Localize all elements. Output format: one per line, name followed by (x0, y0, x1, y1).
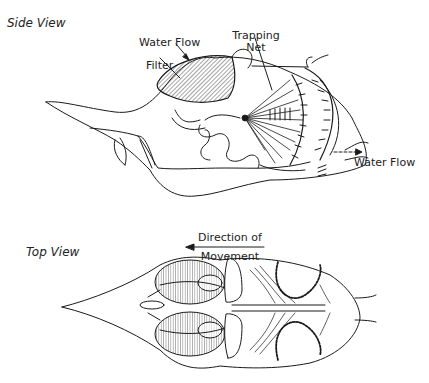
water-flow-out-label: Water Flow (354, 157, 415, 169)
trapping-net-label-line2: Net (226, 42, 286, 54)
diagram-canvas (0, 0, 429, 383)
side-view-title: Side View (7, 17, 66, 29)
filter-label: Filter (146, 60, 173, 72)
side-view-organism (46, 38, 368, 196)
top-net-upper (276, 262, 320, 298)
gut-loop (199, 115, 259, 168)
movement-label: Movement (180, 251, 280, 263)
trapping-net (242, 80, 303, 163)
direction-of-label: Direction of (180, 232, 280, 244)
top-view-title: Top View (26, 246, 79, 258)
water-flow-in-label: Water Flow (139, 37, 200, 49)
trapping-net-label: Trapping Net (226, 30, 286, 54)
top-view-organism (62, 257, 376, 368)
